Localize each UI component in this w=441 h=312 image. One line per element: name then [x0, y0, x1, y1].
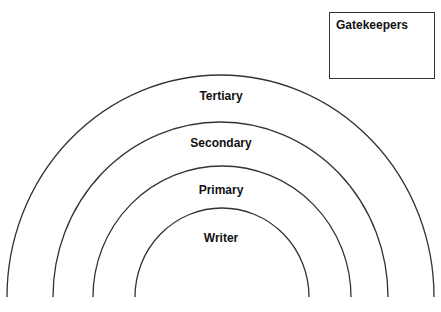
label-writer: Writer: [204, 231, 238, 245]
label-primary: Primary: [199, 183, 244, 197]
gatekeepers-label: Gatekeepers: [336, 18, 408, 32]
label-tertiary: Tertiary: [199, 89, 242, 103]
label-secondary: Secondary: [190, 136, 251, 150]
arc-writer: [135, 208, 309, 297]
gatekeepers-box: Gatekeepers: [329, 12, 435, 79]
